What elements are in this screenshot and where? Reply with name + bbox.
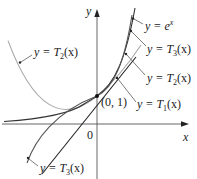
y-axis-arrow-icon [94,9,99,17]
label-exp: y = ex [144,18,174,33]
x-axis-arrow-icon [181,121,189,126]
label-t3-right: y = T3(x) [146,42,191,58]
axes [2,9,189,179]
leader-t3-right [132,32,146,46]
leader-arrowheads [19,17,134,159]
label-t1-right: y = T1(x) [136,97,181,113]
label-t2-left: y = T2(x) [33,45,78,61]
x-axis-label: x [182,130,189,144]
label-t3-bottom: y = T3(x) [39,161,84,177]
leader-exp [134,19,143,24]
leader-t2-left [21,55,32,62]
t1-line [42,57,136,174]
origin-label: 0 [87,128,93,142]
leader-t3-bottom [29,159,38,166]
label-t2-right: y = T2(x) [146,71,191,87]
t3-curve [27,15,132,163]
point-0-1 [95,94,99,98]
point-label: (0, 1) [101,95,127,109]
taylor-polynomials-diagram: y x 0 (0, 1) y = ex y = T3(x) y = T2(x) … [0,0,197,179]
y-axis-label: y [85,4,92,18]
